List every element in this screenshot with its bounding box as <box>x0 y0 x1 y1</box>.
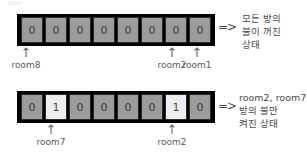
bit-cell: 1 <box>165 94 187 120</box>
bit-cell: 0 <box>45 17 67 43</box>
room-label: room2 <box>152 136 192 148</box>
room-marker-room7: ↑ room7 <box>31 123 71 148</box>
bit-cell: 0 <box>189 17 211 43</box>
room-label: room7 <box>31 136 71 148</box>
up-arrow-icon: ↑ <box>177 46 217 59</box>
bit-cell: 1 <box>45 94 67 120</box>
annotation-bottom: room2, room7 방의 불만 켜진 상태 <box>239 91 306 130</box>
bit-cell: 0 <box>21 94 43 120</box>
diagram-room2-room7-lights-on: 0 1 0 0 0 0 1 0 ↑ room7 ↑ room2 => room2… <box>0 77 307 154</box>
annotation-line: 상태 <box>242 38 281 51</box>
bit-cell: 0 <box>21 17 43 43</box>
room-marker-room8: ↑ room8 <box>6 46 46 71</box>
annotation-line: 모든 방의 <box>242 12 281 25</box>
up-arrow-icon: ↑ <box>31 123 71 136</box>
bit-cell: 0 <box>141 94 163 120</box>
up-arrow-icon: ↑ <box>152 123 192 136</box>
bit-cell: 0 <box>117 94 139 120</box>
bit-cell: 0 <box>141 17 163 43</box>
bit-array-bottom: 0 1 0 0 0 0 1 0 <box>17 91 215 123</box>
bit-cell: 0 <box>93 17 115 43</box>
bit-cell: 0 <box>93 94 115 120</box>
bit-array-top: 0 0 0 0 0 0 0 0 <box>17 14 215 46</box>
bit-cell: 0 <box>69 17 91 43</box>
annotation-line: 방의 불만 <box>239 104 306 117</box>
annotation-line: 켜진 상태 <box>239 117 306 130</box>
annotation-line: 불이 꺼진 <box>242 25 281 38</box>
diagram-all-lights-off: 0 0 0 0 0 0 0 0 ↑ room8 ↑ room2 ↑ room1 … <box>0 0 307 77</box>
bit-cell: 0 <box>117 17 139 43</box>
annotation-line: room2, room7 <box>239 91 306 104</box>
bit-cell: 0 <box>69 94 91 120</box>
bit-cell: 0 <box>189 94 211 120</box>
bit-cell: 0 <box>165 17 187 43</box>
room-label: room1 <box>177 59 217 71</box>
annotation-top: 모든 방의 불이 꺼진 상태 <box>242 12 281 51</box>
implies-arrow-top: => <box>218 20 236 34</box>
implies-arrow-bottom: => <box>218 99 236 113</box>
room-marker-room1: ↑ room1 <box>177 46 217 71</box>
room-marker-room2: ↑ room2 <box>152 123 192 148</box>
up-arrow-icon: ↑ <box>6 46 46 59</box>
room-label: room8 <box>6 59 46 71</box>
